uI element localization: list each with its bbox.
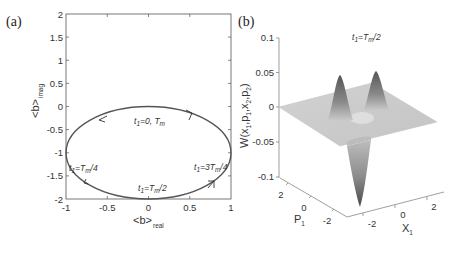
svg-text:-0.5: -0.5 (47, 124, 63, 135)
y-tick-labels: 2 1.5 1 0.5 0 -0.5 -1 -1.5 -2 (47, 9, 63, 205)
x1-axis-label: X1 (402, 222, 413, 236)
panel-b-label: (b) (238, 14, 255, 30)
svg-text:-1.5: -1.5 (47, 170, 63, 181)
panel-a-label: (a) (6, 14, 22, 30)
svg-text:0: 0 (146, 202, 151, 213)
svg-text:-0.05: -0.05 (252, 136, 274, 147)
svg-text:-1: -1 (62, 202, 70, 213)
svg-text:1: 1 (58, 55, 63, 66)
annotation-t0: t1=0, Tm (134, 116, 166, 127)
svg-text:2: 2 (58, 9, 63, 20)
p1-axis (280, 178, 347, 217)
z-ticks (276, 38, 279, 177)
z-axis-label: W(x1,p1,x2,p2) (238, 83, 252, 148)
x-axis-label: <b>real (133, 214, 164, 229)
svg-text:1.5: 1.5 (50, 32, 63, 43)
x-tick-labels: -1 -0.5 0 0.5 1 (62, 202, 234, 213)
y-axis-label: <b>imag (29, 84, 45, 118)
wigner-surface (279, 71, 437, 207)
p1-axis-label: P1 (294, 213, 305, 227)
arrow-top-left (99, 116, 107, 122)
figure: (a) (0, 0, 463, 259)
panel-a: (a) (6, 9, 234, 230)
annotation-t-three-quarter: t1=3Tm/4 (194, 162, 228, 173)
annotation-t-half: t1=Tm/2 (138, 183, 167, 194)
svg-text:0: 0 (400, 209, 405, 220)
svg-text:-2: -2 (323, 215, 331, 226)
z-tick-labels: 0.1 0.05 0 -0.05 -0.1 (252, 32, 274, 182)
svg-text:2: 2 (431, 201, 436, 212)
svg-text:-0.1: -0.1 (258, 171, 274, 182)
panel-b-title: t1=Tm/2 (352, 32, 381, 43)
svg-text:0: 0 (58, 101, 63, 112)
svg-text:2: 2 (278, 189, 283, 200)
panel-b: (b) t1=Tm/2 0.1 0.05 0 -0.05 -0.1 W(x1,p… (238, 14, 444, 236)
trough (347, 140, 371, 207)
svg-text:0.05: 0.05 (256, 67, 275, 78)
svg-text:0: 0 (269, 101, 274, 112)
central-dip (350, 112, 374, 124)
svg-text:0.5: 0.5 (50, 78, 63, 89)
svg-text:-1: -1 (55, 147, 63, 158)
svg-text:-0.5: -0.5 (99, 202, 115, 213)
svg-text:0: 0 (301, 202, 306, 213)
annotation-t-quarter: t1=Tm/4 (69, 163, 98, 174)
svg-text:-2: -2 (368, 218, 376, 229)
svg-text:0.1: 0.1 (261, 32, 274, 43)
svg-text:-2: -2 (55, 194, 63, 205)
svg-text:1: 1 (228, 202, 233, 213)
svg-text:0.5: 0.5 (183, 202, 196, 213)
